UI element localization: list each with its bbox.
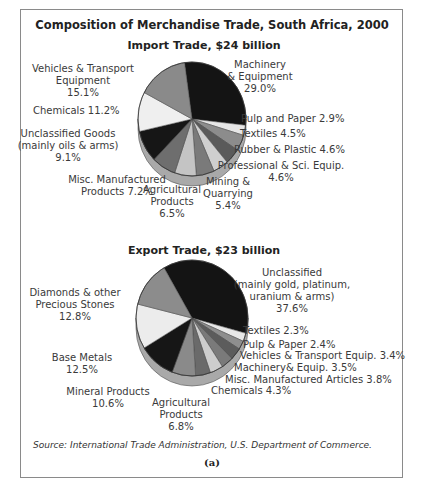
export-label: Chemicals 4.3% <box>211 385 291 396</box>
export-label: Vehicles & Transport Equip. 3.4% <box>240 350 405 361</box>
export-label: Machinery& Equip. 3.5% <box>234 362 357 373</box>
import-label: Pulp and Paper 2.9% <box>241 113 344 124</box>
export-label: Textiles 2.3% <box>242 325 309 336</box>
export-label: Base Metals12.5% <box>52 352 112 375</box>
import-label: Vehicles & TransportEquipment15.1% <box>32 63 134 98</box>
import-label: Rubber & Plastic 4.6% <box>234 144 345 155</box>
export-label: Diamonds & otherPrecious Stones12.8% <box>29 287 121 322</box>
export-label: Pulp & Paper 2.4% <box>243 339 335 350</box>
source-note: Source: International Trade Administrati… <box>33 440 372 450</box>
export-pie-title: Export Trade, $23 billion <box>128 244 280 257</box>
export-label: Mineral Products10.6% <box>66 386 149 409</box>
trade-composition-chart: Composition of Merchandise Trade, South … <box>0 0 426 488</box>
panel-label: (a) <box>204 457 220 468</box>
export-label: AgriculturalProducts6.8% <box>152 397 210 432</box>
figure-title: Composition of Merchandise Trade, South … <box>35 18 388 32</box>
export-label: Unclassified(mainly gold, platinum,urani… <box>234 267 350 314</box>
import-label: Misc. ManufacturedProducts 7.2% <box>68 174 166 197</box>
import-label: Mining &Quarrying5.4% <box>203 176 253 211</box>
import-label: Textiles 4.5% <box>239 128 306 139</box>
export-pie <box>136 260 248 386</box>
import-label: Chemicals 11.2% <box>33 105 120 116</box>
import-pie-title: Import Trade, $24 billion <box>127 39 280 52</box>
import-label: Unclassified Goods(mainly oils & arms)9.… <box>18 128 119 163</box>
export-label: Misc. Manufactured Articles 3.8% <box>225 374 392 385</box>
